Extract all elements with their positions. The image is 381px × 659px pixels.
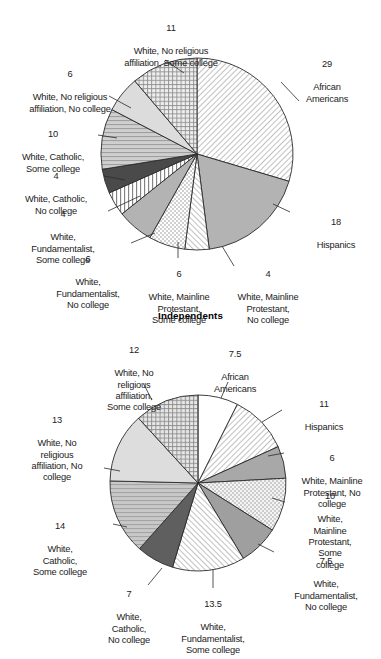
slice-text: White, Catholic, Some college [10,544,110,578]
slice-label-no-religion-some-college: 11 White, No religious affiliation, Some… [103,12,239,80]
pie-chart-bottom: 7.5 African Americans 11 Hispanics 6 Whi… [0,320,381,641]
pie-chart-top: 29 African Americans 18 Hispanics 4 Whit… [0,0,381,320]
slice-value: 18 [294,217,378,228]
slice-label-catholic-no-college: 7 White, Catholic, No college [86,578,172,658]
slice-label-hispanics: 18 Hispanics [294,206,378,263]
slice-text: White, Catholic, Some college [5,152,101,175]
slice-value: 29 [287,59,367,70]
slice-value: 10 [5,129,101,140]
slice-text: Hispanics [294,240,378,251]
slice-value: 14 [10,521,110,532]
slice-text: White, No religious affiliation, Some co… [85,368,183,414]
slice-text: Hispanics [283,422,365,433]
slice-label-catholic-some-college: 14 White, Catholic, Some college [10,510,110,590]
slice-text: White, Catholic, No college [86,612,172,646]
slice-value: 6 [133,269,225,280]
slice-value: 11 [103,23,239,34]
slice-value: 11 [283,399,365,410]
slice-text: White, Fundamentalist, No college [274,579,378,613]
slice-value: 13.5 [160,599,266,610]
slice-text: White, Fundamentalist, Some college [17,232,109,266]
slice-value: 4 [222,269,314,280]
slice-text: White, No religious affiliation, No coll… [5,92,135,115]
slice-value: 7.5 [274,556,378,567]
slice-value: 7.5 [191,349,279,360]
slice-value: 6 [285,453,379,464]
slice-text: White, Fundamentalist, No college [42,277,134,311]
slice-text: White, No religious affiliation, Some co… [103,46,239,69]
slice-label-african-americans: 29 African Americans [287,48,367,116]
slice-text: White, No religious affiliation, No coll… [8,438,106,484]
slice-text: White, Fundamentalist, Some college [160,622,266,656]
slice-text: African Americans [287,82,367,105]
slice-value: 12 [85,345,183,356]
slice-text: White, Catholic, No college [8,194,104,217]
slice-value: 10 [291,491,369,502]
slice-text: African Americans [191,372,279,395]
slice-label-african-americans: 7.5 African Americans [191,338,279,406]
slice-label-no-religion-some-college: 12 White, No religious affiliation, Some… [85,334,183,425]
slice-label-catholic-some-college: 10 White, Catholic, Some college [5,118,101,186]
slice-label-fundamentalist-no-college: 7.5 White, Fundamentalist, No college [274,545,378,625]
slice-label-hispanics: 11 Hispanics [283,388,365,445]
slice-label-fundamentalist-some-college: 13.5 White, Fundamentalist, Some college [160,588,266,659]
slice-value: 7 [86,589,172,600]
